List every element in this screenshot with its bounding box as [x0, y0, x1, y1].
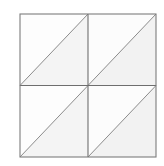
figure-root	[0, 0, 164, 166]
mesh-cell-r1-c1	[88, 86, 156, 158]
triangulated-mesh-diagram	[0, 0, 164, 166]
mesh-cell-r0-c1	[88, 14, 156, 86]
mesh-cell-r1-c0	[20, 86, 88, 158]
mesh-cell-r0-c0	[20, 14, 88, 86]
